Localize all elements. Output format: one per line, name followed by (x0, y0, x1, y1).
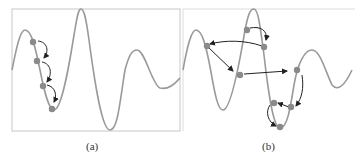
panel-a-caption: (a) (86, 140, 98, 152)
figure-canvas (0, 0, 363, 157)
panel-b (183, 9, 355, 131)
panel-a-points (30, 39, 55, 112)
panel-b-caption: (b) (262, 140, 275, 152)
panel-a (12, 9, 180, 131)
panel-a-curve (12, 9, 180, 130)
panel-a-frame (12, 9, 180, 131)
